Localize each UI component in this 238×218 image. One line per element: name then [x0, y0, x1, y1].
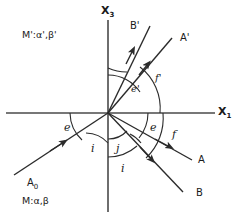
media-label-upper: M':α',β'	[22, 30, 57, 40]
ray-label-B-prime: B'	[130, 21, 140, 31]
ray-label-A-prime: A'	[180, 33, 190, 43]
angle-label-i-left: i	[91, 143, 95, 154]
ray-label-B: B	[196, 188, 203, 198]
media-label-lower: M:α,β	[22, 196, 49, 206]
angle-label-i-lower: i	[121, 163, 125, 174]
angle-label-e-prime: e'	[131, 84, 140, 94]
ray-diagram-figure: X3 X1 M':α',β' M:α,β A0 B' A' A B e' f' …	[0, 0, 238, 218]
ray-A-prime-line	[108, 38, 172, 113]
arrow-A0-incident	[50, 142, 64, 151]
ray-lines	[14, 26, 192, 192]
ray-arrowheads	[50, 50, 170, 160]
arc-i-left	[86, 133, 108, 143]
axis-label-x3: X3	[101, 5, 114, 19]
angle-label-e-right: e	[150, 122, 157, 133]
angle-label-j: j	[116, 143, 119, 154]
arc-j	[108, 131, 127, 139]
arc-i-lower	[108, 146, 137, 157]
arc-e-left	[70, 113, 82, 140]
angle-label-f-prime: f'	[155, 73, 161, 83]
ray-label-A0: A0	[27, 178, 38, 191]
arc-b-prime-inner	[108, 68, 127, 72]
angle-label-e-left: e	[64, 122, 71, 133]
angle-label-f-right: f	[172, 129, 176, 140]
axis-label-x1: X1	[218, 106, 231, 120]
ray-label-A: A	[198, 155, 205, 165]
